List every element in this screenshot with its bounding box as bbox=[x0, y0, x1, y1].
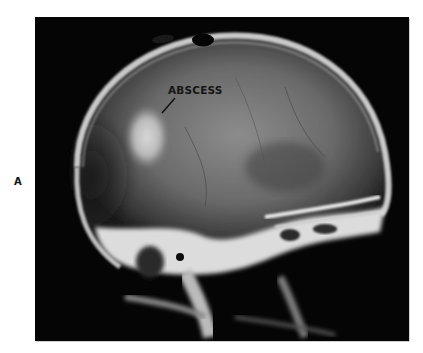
abscess-region bbox=[125, 105, 169, 169]
skull-xray-image bbox=[35, 17, 409, 341]
burr-hole-large bbox=[192, 34, 214, 47]
burr-hole-small bbox=[152, 34, 175, 45]
abscess-annotation-label: ABSCESS bbox=[168, 84, 223, 96]
skull-radiograph: ABSCESS bbox=[35, 17, 409, 341]
figure-panel-label: A bbox=[14, 176, 22, 187]
